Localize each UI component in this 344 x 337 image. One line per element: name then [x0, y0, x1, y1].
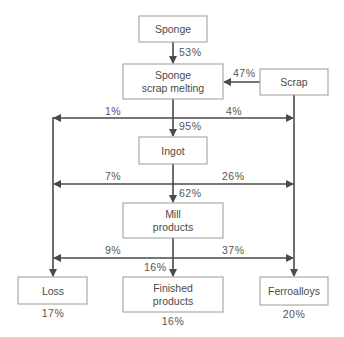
- node-melting: Sponge scrap melting: [123, 64, 223, 99]
- edge-label-melting-to-loss: 1%: [105, 105, 121, 117]
- edge-label-ingot-to-ferro: 26%: [222, 170, 245, 182]
- node-finished-label-line1: Finished: [153, 282, 193, 294]
- node-finished-share: 16%: [162, 315, 185, 327]
- edge-label-ingot-to-mill: 62%: [179, 187, 202, 199]
- node-mill: Mill products: [123, 203, 223, 238]
- node-sponge: Sponge: [139, 16, 207, 42]
- node-ferroalloys-label: Ferroalloys: [268, 285, 320, 297]
- edge-label-ingot-to-loss: 7%: [105, 170, 121, 182]
- node-melting-label-line2: scrap melting: [142, 82, 205, 94]
- node-sponge-label: Sponge: [155, 23, 191, 35]
- node-finished: Finished products 16%: [123, 277, 223, 327]
- edge-label-mill-to-finished: 16%: [144, 261, 167, 273]
- edge-label-melting-to-ferro: 4%: [226, 105, 242, 117]
- edge-label-scrap-to-melting: 47%: [233, 67, 256, 79]
- node-scrap: Scrap: [260, 69, 328, 95]
- flow-diagram: Sponge Sponge scrap melting Scrap Ingot …: [0, 0, 344, 337]
- node-melting-label-line1: Sponge: [155, 69, 191, 81]
- node-finished-label-line2: products: [153, 295, 193, 307]
- node-scrap-label: Scrap: [280, 76, 308, 88]
- node-mill-label-line1: Mill: [165, 208, 181, 220]
- node-ingot: Ingot: [139, 137, 207, 164]
- edge-label-mill-to-ferro: 37%: [222, 244, 245, 256]
- node-mill-label-line2: products: [153, 221, 193, 233]
- node-loss-label: Loss: [42, 285, 64, 297]
- node-loss-share: 17%: [42, 307, 65, 319]
- node-loss: Loss 17%: [18, 277, 87, 319]
- node-ferroalloys-share: 20%: [283, 308, 306, 320]
- edge-label-sponge-to-melting: 53%: [179, 46, 202, 58]
- edge-label-melting-to-ingot: 95%: [179, 120, 202, 132]
- node-ingot-label: Ingot: [161, 145, 184, 157]
- node-ferroalloys: Ferroalloys 20%: [260, 277, 328, 320]
- edge-label-mill-to-loss: 9%: [105, 244, 121, 256]
